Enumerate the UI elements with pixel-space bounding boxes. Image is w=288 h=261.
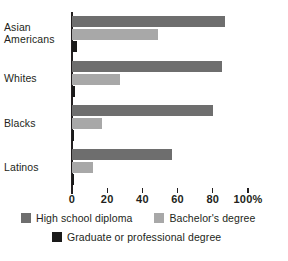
bar-whites-high-school-diploma[interactable]: [72, 61, 222, 72]
bar-blacks-high-school-diploma[interactable]: [72, 105, 213, 116]
category-label-asian-americans: Asian Americans: [4, 22, 70, 45]
x-tick-label-20: 20: [101, 193, 114, 205]
legend-swatch-icon-graduate-or-professional-degree: [52, 232, 62, 242]
x-tick-label-60: 60: [171, 193, 184, 205]
bar-latinos-graduate-or-professional-degree[interactable]: [72, 174, 74, 185]
x-tick-label-40: 40: [136, 193, 149, 205]
bar-asian-americans-high-school-diploma[interactable]: [72, 16, 225, 27]
bar-group-latinos: [72, 149, 248, 186]
bar-group-asian-americans: [72, 16, 248, 53]
bar-group-blacks: [72, 105, 248, 142]
legend-swatch-icon-bachelors-degree: [154, 213, 164, 223]
bar-blacks-bachelor-s-degree[interactable]: [72, 118, 102, 129]
bar-asian-americans-bachelor-s-degree[interactable]: [72, 29, 158, 40]
bar-latinos-high-school-diploma[interactable]: [72, 149, 172, 160]
legend-label-high-school-diploma: High school diploma: [36, 212, 132, 224]
bar-whites-bachelor-s-degree[interactable]: [72, 74, 120, 85]
x-tick-label-100: 100%: [234, 193, 263, 205]
bar-whites-graduate-or-professional-degree[interactable]: [72, 86, 75, 97]
bar-asian-americans-graduate-or-professional-degree[interactable]: [72, 41, 77, 52]
x-tick-label-80: 80: [206, 193, 219, 205]
legend-item-bachelors-degree[interactable]: Bachelor's degree: [154, 212, 255, 224]
bar-blacks-graduate-or-professional-degree[interactable]: [72, 130, 74, 141]
x-tick-label-0: 0: [69, 193, 75, 205]
legend-swatch-icon-high-school-diploma: [21, 213, 31, 223]
legend-item-high-school-diploma[interactable]: High school diploma: [21, 212, 132, 224]
category-label-blacks: Blacks: [4, 118, 70, 130]
bar-chart: Asian Americans Whites Blacks Latinos 02…: [0, 0, 288, 261]
category-label-latinos: Latinos: [4, 162, 70, 174]
plot-area: [72, 12, 248, 188]
bar-group-whites: [72, 61, 248, 98]
legend-label-bachelors-degree: Bachelor's degree: [169, 212, 255, 224]
legend-label-graduate-or-professional-degree: Graduate or professional degree: [67, 231, 221, 243]
category-label-whites: Whites: [4, 73, 70, 85]
legend-item-graduate-or-professional-degree[interactable]: Graduate or professional degree: [52, 231, 221, 243]
bar-latinos-bachelor-s-degree[interactable]: [72, 162, 93, 173]
